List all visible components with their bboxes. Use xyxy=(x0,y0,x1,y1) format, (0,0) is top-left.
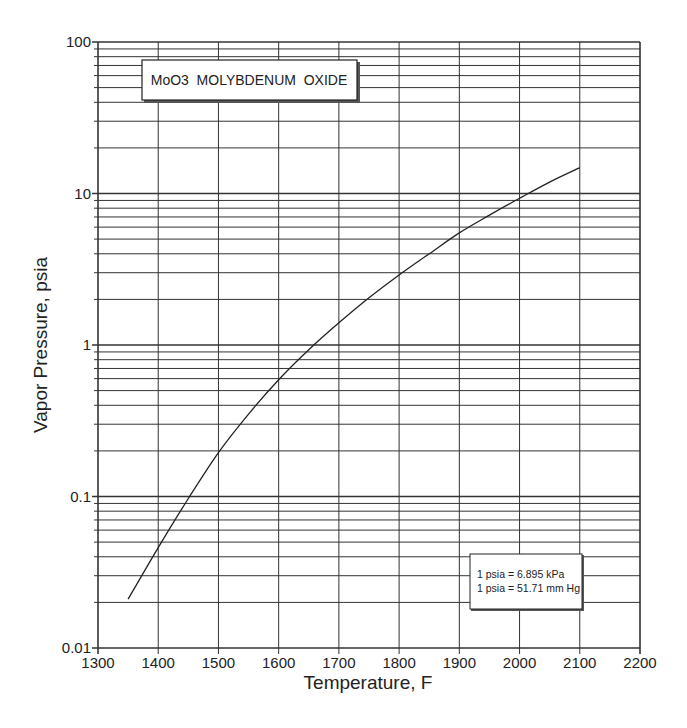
x-axis-tick-labels: 1300140015001600170018001900200021002200 xyxy=(81,654,656,671)
x-tick-label: 1500 xyxy=(202,654,235,671)
x-tick-label: 1400 xyxy=(142,654,175,671)
y-axis-tick-labels: 0.010.1110100 xyxy=(62,33,91,656)
x-tick-label: 2000 xyxy=(503,654,536,671)
title-box: MoO3 MOLYBDENUM OXIDE xyxy=(142,60,360,103)
y-tick-label: 0.1 xyxy=(70,488,91,505)
vapor-pressure-chart: 1300140015001600170018001900200021002200… xyxy=(0,0,687,728)
x-tick-label: 2200 xyxy=(623,654,656,671)
x-axis-title: Temperature, F xyxy=(304,672,433,693)
x-tick-label: 1700 xyxy=(322,654,355,671)
x-tick-label: 1800 xyxy=(382,654,415,671)
vapor-pressure-curve xyxy=(128,168,580,599)
x-tick-label: 1600 xyxy=(262,654,295,671)
y-tick-label: 0.01 xyxy=(62,639,91,656)
chart-title: MoO3 MOLYBDENUM OXIDE xyxy=(151,72,348,88)
y-tick-label: 10 xyxy=(74,185,91,202)
y-tick-label: 100 xyxy=(66,33,91,50)
note-line-kpa: 1 psia = 6.895 kPa xyxy=(477,568,564,580)
y-axis-title: Vapor Pressure, psia xyxy=(30,257,51,433)
x-tick-label: 1300 xyxy=(81,654,114,671)
y-tick-label: 1 xyxy=(83,336,91,353)
x-tick-label: 2100 xyxy=(563,654,596,671)
conversion-note-box: 1 psia = 6.895 kPa 1 psia = 51.71 mm Hg xyxy=(470,554,584,611)
x-tick-label: 1900 xyxy=(443,654,476,671)
note-line-mmhg: 1 psia = 51.71 mm Hg xyxy=(477,582,580,594)
